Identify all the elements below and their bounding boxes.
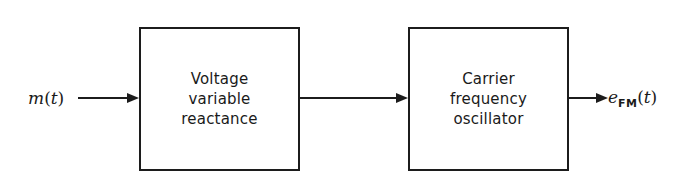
input-arrow	[78, 90, 139, 106]
output-signal-variable: t	[644, 87, 651, 107]
block-carrier-frequency-oscillator[interactable]: Carrier frequency oscillator	[408, 27, 569, 171]
block-carrier-frequency-oscillator-line-3: oscillator	[453, 109, 523, 129]
output-signal-subscript: FM	[618, 97, 637, 110]
block-voltage-variable-reactance-line-2: variable	[188, 89, 250, 109]
input-signal-label: m(t)	[28, 88, 64, 108]
block-carrier-frequency-oscillator-line-1: Carrier	[462, 69, 515, 89]
output-signal-label: eFM(t)	[608, 87, 657, 110]
middle-arrow	[300, 90, 408, 106]
block-voltage-variable-reactance-line-1: Voltage	[191, 69, 249, 89]
output-signal-base: e	[608, 87, 618, 107]
block-voltage-variable-reactance-line-3: reactance	[181, 109, 257, 129]
block-carrier-frequency-oscillator-line-2: frequency	[450, 89, 527, 109]
input-signal-variable: t	[51, 88, 58, 108]
block-voltage-variable-reactance[interactable]: Voltage variable reactance	[139, 27, 300, 171]
output-arrow	[569, 90, 608, 106]
input-signal-base: m	[28, 88, 44, 108]
block-diagram-canvas: m(t) Voltage variable reactance Carrier …	[0, 0, 699, 183]
